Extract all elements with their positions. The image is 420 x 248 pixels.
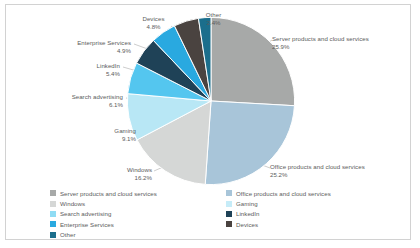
slice-label-enterprise-services-name: Enterprise Services (77, 39, 131, 46)
legend-swatch (50, 211, 56, 217)
pie-slice[interactable] (211, 17, 295, 105)
slice-label-enterprise-services-pct: 4.9% (44, 47, 131, 55)
legend-swatch (226, 190, 232, 196)
slice-label-devices-pct: 4.8% (137, 23, 170, 31)
legend-label: Search advertising (60, 210, 111, 217)
slice-label-other: Other 2.4% (199, 11, 228, 26)
slice-label-office: Office products and cloud services 25.2% (270, 163, 365, 178)
legend-item[interactable]: Gaming (226, 198, 402, 208)
slice-label-search-advertising: Search advertising 6.1% (30, 93, 123, 108)
slice-label-server-name: Server products and cloud services (272, 35, 369, 42)
legend-label: Other (60, 231, 76, 238)
slice-label-other-name: Other (206, 11, 222, 18)
legend-item[interactable]: Windows (50, 198, 226, 208)
slice-label-gaming-name: Gaming (114, 127, 136, 134)
chart-legend: Server products and cloud servicesWindow… (50, 188, 402, 240)
legend-swatch (50, 201, 56, 207)
slice-label-gaming-pct: 9.1% (78, 135, 136, 143)
slice-label-other-pct: 2.4% (199, 19, 228, 27)
legend-swatch (50, 232, 56, 238)
chart-frame: Server products and cloud services 25.9%… (5, 4, 411, 240)
slice-label-devices-name: Devices (142, 15, 164, 22)
slice-label-search-advertising-pct: 6.1% (30, 101, 123, 109)
legend-swatch (50, 221, 56, 227)
legend-item[interactable]: Other (50, 230, 226, 240)
slice-label-windows-pct: 16.2% (90, 174, 152, 182)
legend-swatch (226, 211, 232, 217)
legend-label: LinkedIn (236, 210, 259, 217)
legend-swatch (226, 201, 232, 207)
legend-item-spacer (226, 230, 402, 240)
slice-label-server-pct: 25.9% (272, 43, 369, 51)
slice-label-devices: Devices 4.8% (137, 15, 170, 30)
pie-chart-area: Server products and cloud services 25.9%… (6, 5, 412, 241)
legend-item[interactable]: Enterprise Services (50, 219, 226, 229)
legend-label: Devices (236, 221, 258, 228)
slice-label-windows: Windows 16.2% (90, 166, 152, 181)
legend-item[interactable]: Devices (226, 219, 402, 229)
slice-label-linkedin: LinkedIn 5.4% (60, 62, 120, 77)
legend-swatch (226, 221, 232, 227)
slice-label-office-pct: 25.2% (270, 171, 365, 179)
legend-label: Windows (60, 200, 85, 207)
legend-swatch (50, 190, 56, 196)
legend-label: Enterprise Services (60, 221, 114, 228)
legend-label: Office products and cloud services (236, 190, 331, 197)
legend-label: Gaming (236, 200, 258, 207)
legend-item[interactable]: Search advertising (50, 209, 226, 219)
legend-item[interactable]: Server products and cloud services (50, 188, 226, 198)
slice-label-gaming: Gaming 9.1% (78, 127, 136, 142)
slice-label-linkedin-name: LinkedIn (97, 62, 120, 69)
slice-label-enterprise-services: Enterprise Services 4.9% (44, 39, 131, 54)
slice-label-linkedin-pct: 5.4% (60, 70, 120, 78)
legend-item[interactable]: LinkedIn (226, 209, 402, 219)
legend-item[interactable]: Office products and cloud services (226, 188, 402, 198)
slice-label-server: Server products and cloud services 25.9% (272, 35, 369, 50)
slice-label-search-advertising-name: Search advertising (72, 93, 123, 100)
slice-label-office-name: Office products and cloud services (270, 163, 365, 170)
slice-label-windows-name: Windows (127, 166, 152, 173)
legend-label: Server products and cloud services (60, 190, 157, 197)
